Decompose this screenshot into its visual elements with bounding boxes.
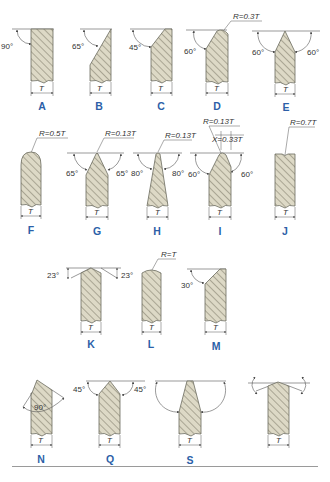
- angle-label-right: 45°: [134, 385, 146, 394]
- thickness-symbol: T: [94, 208, 100, 217]
- radius-annotation: R=0.3T: [233, 12, 261, 21]
- profile-label-j: J: [282, 225, 288, 237]
- radius-annotation: R=0.13T: [165, 131, 197, 140]
- angle-label-right: 23°: [121, 271, 133, 280]
- profile-l: R=T T L: [142, 250, 177, 350]
- angle-label: 90°: [1, 42, 13, 51]
- angle-label: 30°: [181, 281, 193, 290]
- thickness-symbol: T: [38, 436, 44, 445]
- profile-s: T: [248, 377, 310, 448]
- profile-label-d: D: [213, 100, 221, 112]
- profile-k: 23° 23° T K: [47, 268, 133, 350]
- profile-label-a: A: [38, 100, 46, 112]
- radius-annotation: R=0.13T: [105, 129, 137, 138]
- profile-q: T S: [155, 381, 226, 466]
- angle-label-left: 60°: [188, 170, 200, 179]
- radius-annotation: R=T: [161, 250, 177, 259]
- radius-annotation: R=0.5T: [39, 129, 67, 138]
- angle-label-left: 60°: [252, 48, 264, 57]
- thickness-symbol: T: [217, 208, 223, 217]
- thickness-symbol: T: [28, 207, 34, 216]
- profile-label-n: N: [37, 453, 45, 465]
- thickness-symbol: T: [97, 84, 103, 93]
- profile-c: 45° T C: [129, 29, 172, 112]
- profile-label-i: I: [219, 225, 222, 237]
- thickness-symbol: T: [187, 436, 193, 445]
- profile-label-k: K: [87, 338, 95, 350]
- angle-label: 60°: [184, 47, 196, 56]
- profile-label-c: C: [157, 100, 165, 112]
- profile-label-b: B: [95, 100, 103, 112]
- thickness-symbol: T: [107, 436, 113, 445]
- profile-label-h: H: [153, 225, 161, 237]
- angle-label-left: 23°: [47, 271, 59, 280]
- profile-p: 45° 45° T Q: [73, 381, 146, 465]
- profile-n: 90° T N: [23, 380, 64, 465]
- thickness-symbol: T: [158, 84, 164, 93]
- profile-label-q: S: [186, 454, 193, 466]
- thickness-symbol: T: [214, 84, 220, 93]
- profile-label-e: E: [282, 101, 289, 113]
- thickness-symbol: T: [283, 208, 289, 217]
- profiles-diagram: 90° T A 65° T B 45° T C 60° R=0.3T: [0, 0, 330, 482]
- offset-annotation: X=0.33T: [211, 135, 244, 144]
- profile-d: 60° R=0.3T T D: [184, 12, 262, 112]
- thickness-symbol: T: [276, 436, 282, 445]
- angle-label-left: 65°: [66, 169, 78, 178]
- thickness-symbol: T: [213, 323, 219, 332]
- profile-label-l: L: [148, 338, 155, 350]
- angle-label: 90°: [34, 403, 46, 412]
- radius-annotation: R=0.7T: [290, 118, 318, 127]
- angle-label: 45°: [129, 43, 141, 52]
- profile-label-p: Q: [106, 453, 114, 465]
- angle-label-right: 65°: [116, 169, 128, 178]
- angle-label-left: 45°: [73, 385, 85, 394]
- profile-label-g: G: [93, 225, 101, 237]
- profile-i: 60° 60° R=0.13T X=0.33T T I: [188, 117, 253, 237]
- profile-m: 30° T M: [181, 269, 226, 352]
- profile-label-f: F: [28, 224, 35, 236]
- thickness-symbol: T: [283, 85, 289, 94]
- profile-h: 80° 80° R=0.13T T H: [131, 131, 197, 237]
- profile-b: 65° T B: [72, 29, 112, 112]
- footer-divider: [12, 466, 318, 467]
- thickness-symbol: T: [39, 84, 45, 93]
- thickness-symbol: T: [88, 323, 94, 332]
- profile-f: R=0.5T T F: [21, 129, 68, 236]
- profile-e: 60° 60° T E: [252, 31, 320, 113]
- angle-label: 65°: [72, 42, 84, 51]
- profile-j: R=0.7T T J: [275, 118, 318, 237]
- thickness-symbol: T: [155, 208, 161, 217]
- angle-label-right: 60°: [241, 170, 253, 179]
- angle-label-right: 80°: [172, 169, 184, 178]
- profile-g: 65° 65° R=0.13T T G: [66, 129, 137, 237]
- profile-a: 90° T A: [1, 29, 54, 112]
- thickness-symbol: T: [149, 323, 155, 332]
- radius-annotation: R=0.13T: [203, 117, 235, 126]
- angle-label-left: 80°: [131, 169, 143, 178]
- angle-label-right: 60°: [307, 48, 319, 57]
- profile-label-m: M: [212, 340, 221, 352]
